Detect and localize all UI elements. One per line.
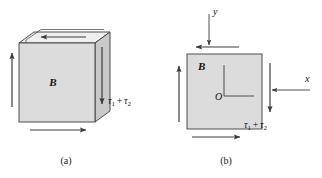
panel-b-stress-label: τ1+τ2 [244, 119, 268, 132]
figure-canvas: B τ1+τ2 (a) y x [0, 0, 322, 178]
panel-a: B τ1+τ2 (a) [12, 30, 132, 168]
panel-b-tau-1-subscript: 1 [248, 124, 252, 132]
origin-label: O [215, 91, 222, 102]
panel-a-tau-2-subscript: 2 [128, 100, 132, 108]
y-axis-label: y [212, 6, 218, 17]
panel-b-body-label: B [197, 60, 205, 72]
panel-b-caption: (b) [220, 155, 232, 167]
x-axis-label: x [304, 73, 310, 84]
panel-a-body-label: B [48, 76, 56, 88]
panel-b: y x B O τ1+τ2 (b) [179, 6, 310, 167]
block-front-face [19, 43, 95, 122]
panel-b-tau-2-subscript: 2 [264, 124, 268, 132]
panel-a-tau-1-subscript: 1 [112, 100, 116, 108]
figure-container: B τ1+τ2 (a) y x [0, 0, 322, 178]
panel-a-plus-sign: + [117, 95, 123, 106]
panel-a-caption: (a) [60, 155, 71, 167]
panel-b-plus-sign: + [253, 119, 259, 130]
panel-a-stress-label: τ1+τ2 [108, 95, 132, 108]
